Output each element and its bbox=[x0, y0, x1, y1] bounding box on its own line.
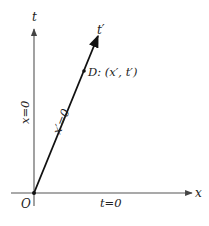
x-axis-caption: t=0 bbox=[100, 196, 122, 210]
point-d bbox=[82, 69, 86, 73]
spacetime-diagram: t t′ x O D: (x′, t′) t=0 x=0 x′=0 bbox=[0, 0, 209, 226]
t-prime-axis-label: t′ bbox=[97, 23, 105, 37]
origin-label: O bbox=[21, 197, 31, 211]
x-axis-label: x bbox=[195, 186, 202, 200]
t-axis-caption: x=0 bbox=[18, 101, 32, 124]
t-axis-label: t bbox=[32, 10, 37, 24]
t-prime-axis-caption: x′=0 bbox=[50, 107, 73, 136]
point-d-label: D: (x′, t′) bbox=[87, 65, 137, 79]
origin-point bbox=[32, 191, 36, 195]
